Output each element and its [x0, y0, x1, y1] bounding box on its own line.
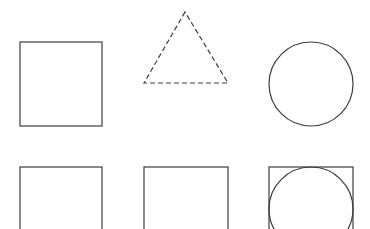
- top-left-square: [20, 42, 102, 126]
- dashed-triangle: [144, 12, 228, 83]
- square-with-inscribed-circle: [269, 167, 353, 229]
- bottom-right-square: [269, 167, 353, 229]
- bottom-middle-square: [144, 167, 228, 229]
- top-right-circle: [269, 42, 353, 126]
- shapes-diagram: [0, 0, 370, 229]
- bottom-left-square: [20, 167, 102, 229]
- inscribed-circle: [269, 167, 353, 229]
